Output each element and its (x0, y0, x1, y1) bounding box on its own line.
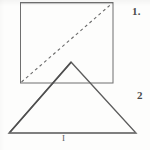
geometry-figure-svg (0, 0, 150, 150)
triangle-left-edge-emphasis (10, 63, 71, 133)
triangle-shape (9, 62, 136, 133)
figure-1-label: 1. (132, 6, 141, 17)
square-diagonal-dashed-line (22, 3, 113, 82)
figure-container: 1. 2 I (0, 0, 150, 150)
triangle-base-label: I (62, 134, 65, 143)
figure-2-label: 2 (137, 90, 143, 101)
